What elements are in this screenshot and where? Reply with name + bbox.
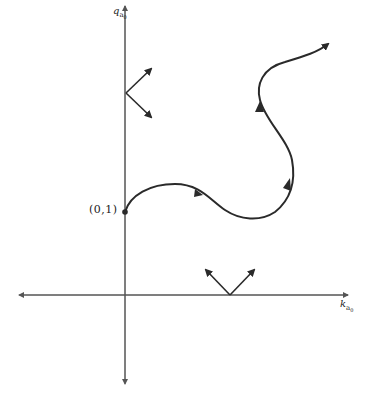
start-point-dot [122,209,128,215]
y-axis-subsubscript: 0 [124,14,127,20]
x-axis-label: ka0 [340,298,353,313]
direction-arrow-2 [283,178,291,191]
x-axis-subsubscript: 0 [350,307,353,313]
start-point-label: (0,1) [89,203,118,216]
trajectory-curve [122,44,328,219]
horizontal-axis-vector-pair [206,270,254,295]
diagram-canvas [0,0,368,395]
y-axis-label: qa0 [113,5,127,20]
vertical-axis-vector-pair [126,69,151,117]
